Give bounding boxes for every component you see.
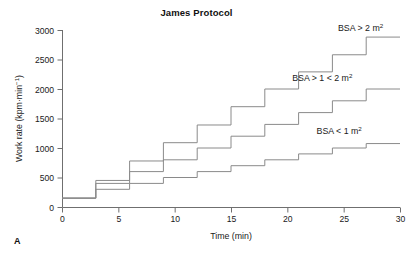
- y-tick-label: 2000: [35, 85, 54, 95]
- y-tick-label: 0: [49, 203, 54, 213]
- y-axis-tick-labels: 050010001500200025003000: [35, 26, 54, 213]
- x-tick-label: 0: [60, 214, 65, 224]
- series-label: BSA > 2 m2: [338, 22, 384, 33]
- x-tick-label: 25: [339, 214, 349, 224]
- series-step-line: [62, 37, 400, 198]
- x-tick-label: 20: [283, 214, 293, 224]
- y-tick-label: 1000: [35, 144, 54, 154]
- panel-label: A: [14, 236, 21, 246]
- x-axis-tick-labels: 051015202530: [60, 214, 405, 224]
- x-tick-label: 5: [116, 214, 121, 224]
- series-labels: BSA > 2 m2BSA > 1 < 2 m2BSA < 1 m2: [292, 22, 384, 136]
- y-tick-label: 3000: [35, 26, 54, 36]
- series-label: BSA > 1 < 2 m2: [292, 72, 353, 83]
- x-axis-ticks: [63, 208, 401, 213]
- series-label: BSA < 1 m2: [317, 125, 363, 136]
- y-axis-ticks: [58, 31, 63, 208]
- y-tick-label: 2500: [35, 55, 54, 65]
- series-step-line: [62, 144, 400, 199]
- y-tick-label: 1500: [35, 114, 54, 124]
- x-tick-label: 30: [396, 214, 406, 224]
- series-step-line: [62, 89, 400, 198]
- x-axis-title: Time (min): [210, 231, 252, 241]
- y-tick-label: 500: [40, 173, 55, 183]
- x-tick-label: 15: [227, 214, 237, 224]
- chart-svg: 050010001500200025003000 051015202530 BS…: [0, 0, 413, 264]
- figure-panel-a: James Protocol 050010001500200025003000 …: [0, 0, 413, 264]
- x-tick-label: 10: [170, 214, 180, 224]
- y-axis-title: Work rate (kpm·min−1): [13, 75, 24, 162]
- chart-canvas: 050010001500200025003000 051015202530 BS…: [0, 0, 413, 264]
- series-lines: [62, 37, 400, 198]
